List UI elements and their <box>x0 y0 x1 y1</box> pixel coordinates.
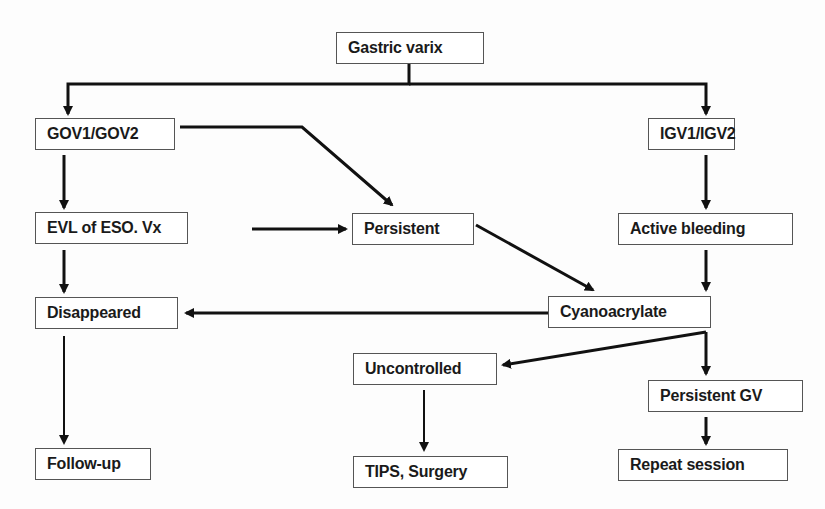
node-persistent: Persistent <box>352 213 474 245</box>
edge-gastric-to-igv <box>409 84 706 114</box>
edge-gov-to-active-visible <box>180 127 392 205</box>
node-gastric-varix: Gastric varix <box>336 32 484 64</box>
node-gov: GOV1/GOV2 <box>35 118 175 150</box>
node-disappeared: Disappeared <box>35 297 178 329</box>
node-active-bleeding: Active bleeding <box>618 213 793 245</box>
node-cyanoacrylate: Cyanoacrylate <box>548 296 711 328</box>
node-igv: IGV1/IGV2 <box>648 118 735 150</box>
connector-layer <box>0 0 825 509</box>
node-repeat-session: Repeat session <box>618 449 788 481</box>
edge-persistent-to-cyano <box>476 225 593 290</box>
edge-cyano-to-uncontrolled <box>503 332 706 365</box>
node-evl: EVL of ESO. Vx <box>35 212 188 244</box>
node-persistent-gv: Persistent GV <box>648 380 803 412</box>
node-uncontrolled: Uncontrolled <box>353 353 497 385</box>
node-follow-up: Follow-up <box>35 448 151 480</box>
node-tips-surgery: TIPS, Surgery <box>353 456 508 488</box>
edge-gastric-to-gov <box>68 64 409 114</box>
